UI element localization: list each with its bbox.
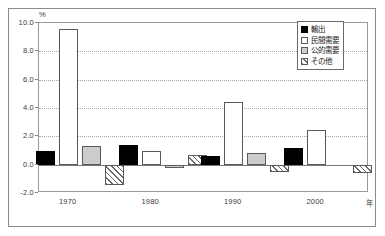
- legend-label: 公的需要: [311, 46, 339, 55]
- bar-private-2000: [307, 130, 326, 165]
- legend-item: 公的需要: [301, 46, 339, 56]
- y-tick-label: 10.0: [19, 18, 34, 27]
- bar-other-1990: [270, 165, 289, 173]
- bar-private-1990: [224, 102, 243, 165]
- legend-swatch-icon: [301, 47, 308, 54]
- y-tick-label: 0.0: [23, 159, 34, 168]
- y-tick-label: 8.0: [23, 46, 34, 55]
- legend-swatch-icon: [301, 58, 308, 65]
- legend-label: 輸出: [311, 25, 325, 34]
- x-tick-label: 2000: [307, 197, 325, 206]
- bar-exports-1980: [119, 145, 138, 165]
- legend-swatch-icon: [301, 37, 308, 44]
- x-tick-label: 1980: [142, 197, 160, 206]
- chart-legend: 輸出民間需要公的需要その他: [297, 21, 344, 70]
- legend-item: その他: [301, 56, 339, 66]
- bar-exports-1970: [36, 151, 55, 165]
- gridline: [39, 80, 367, 81]
- y-tick-mark: [35, 107, 38, 108]
- y-tick-mark: [35, 135, 38, 136]
- bar-private-1980: [142, 151, 161, 165]
- y-tick-mark: [35, 22, 38, 23]
- zero-line: [39, 165, 367, 166]
- legend-label: その他: [311, 57, 332, 66]
- bar-other-1970: [105, 165, 124, 186]
- y-tick-mark: [35, 79, 38, 80]
- chart-figure: % 10.08.06.04.02.00.0-2.0 19701980199020…: [0, 0, 385, 236]
- y-tick-label: 6.0: [23, 74, 34, 83]
- bar-public-1970: [82, 146, 101, 164]
- x-axis-title: 年: [366, 197, 373, 208]
- x-tick-label: 1990: [224, 197, 242, 206]
- y-tick-mark: [35, 50, 38, 51]
- y-axis-unit-label: %: [39, 10, 46, 19]
- legend-swatch-icon: [301, 26, 308, 33]
- y-tick-label: 2.0: [23, 131, 34, 140]
- bar-private-1970: [59, 29, 78, 164]
- bar-public-1990: [247, 153, 266, 164]
- bar-other-2000: [353, 165, 372, 174]
- y-tick-label: 4.0: [23, 103, 34, 112]
- bar-exports-2000: [284, 148, 303, 165]
- gridline: [39, 108, 367, 109]
- y-tick-mark: [35, 164, 38, 165]
- y-axis-tick-labels: 10.08.06.04.02.00.0-2.0: [0, 22, 34, 192]
- y-tick-label: -2.0: [20, 188, 34, 197]
- y-tick-mark: [35, 192, 38, 193]
- bar-exports-1990: [201, 156, 220, 165]
- legend-item: 民間需要: [301, 35, 339, 45]
- x-tick-label: 1970: [59, 197, 77, 206]
- bar-public-1980: [165, 165, 184, 169]
- legend-label: 民間需要: [311, 36, 339, 45]
- legend-item: 輸出: [301, 25, 339, 35]
